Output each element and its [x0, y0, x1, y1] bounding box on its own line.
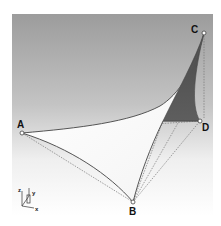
membrane-diagram: A B C D z y x	[0, 0, 221, 226]
point-b	[131, 200, 135, 204]
point-c	[202, 31, 206, 35]
point-a	[20, 131, 24, 135]
axis-label-z: z	[18, 187, 21, 193]
label-b: B	[129, 206, 136, 217]
label-c: C	[191, 24, 198, 35]
label-a: A	[17, 119, 24, 130]
label-d: D	[202, 122, 209, 133]
